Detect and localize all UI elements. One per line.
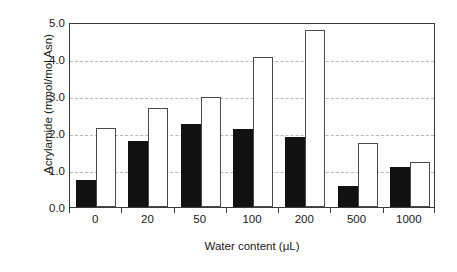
bar-group: [384, 24, 436, 207]
x-axis-title-text: Water content (μL): [204, 240, 299, 252]
x-axis-tick-label: 500: [347, 213, 366, 225]
bar-series-light-50: [201, 97, 221, 207]
y-axis-tick-label: 2.0: [49, 128, 65, 140]
bar-series-dark-20: [128, 141, 148, 207]
x-axis-tick-label: 200: [295, 213, 314, 225]
bar-group: [279, 24, 331, 207]
x-axis-tick-label: 50: [193, 213, 206, 225]
bar-series-dark-500: [338, 186, 358, 207]
bar-series-dark-1000: [390, 167, 410, 207]
bar-group: [122, 24, 174, 207]
x-axis-tick-label: 1000: [396, 213, 422, 225]
bar-series-light-1000: [410, 162, 430, 207]
bar-group: [331, 24, 383, 207]
y-axis-tick-label: 1.0: [49, 165, 65, 177]
x-axis-tick-labels: 020501002005001000: [69, 213, 435, 231]
y-axis-tick-label: 0.0: [49, 202, 65, 214]
bar-group: [227, 24, 279, 207]
bar-series-dark-0: [76, 180, 96, 207]
bar-group: [175, 24, 227, 207]
bar-group: [70, 24, 122, 207]
bar-series-light-200: [305, 30, 325, 207]
y-axis-tick-labels: 0.01.02.03.04.05.0: [38, 23, 65, 208]
x-axis-tick-label: 20: [141, 213, 154, 225]
bar-series-dark-200: [285, 137, 305, 207]
y-axis-tick-label: 3.0: [49, 91, 65, 103]
bar-series-light-100: [253, 57, 273, 207]
x-axis-title: Water content (μL): [69, 240, 435, 252]
x-axis-tick-label: 0: [92, 213, 98, 225]
plot-area: [69, 23, 435, 208]
bar-series-dark-100: [233, 129, 253, 207]
bar-series-light-20: [148, 108, 168, 207]
x-axis-tick-label: 100: [242, 213, 261, 225]
y-axis-tick-label: 4.0: [49, 54, 65, 66]
bar-series-light-0: [96, 128, 116, 207]
bar-series-dark-50: [181, 124, 201, 207]
chart-figure: Acrylamide (mmol/mol Asn) 0.01.02.03.04.…: [0, 0, 457, 272]
y-axis-tick-label: 5.0: [49, 17, 65, 29]
bar-series-light-500: [358, 143, 378, 207]
bars-layer: [70, 24, 434, 207]
